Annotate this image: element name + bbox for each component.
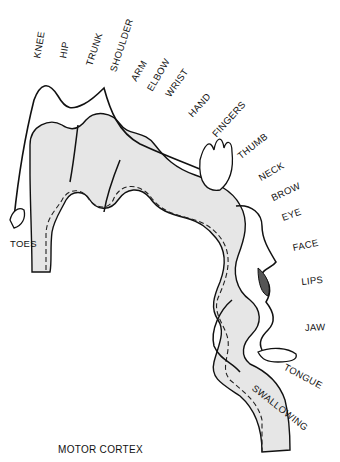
homunculus-hand — [200, 139, 233, 190]
motor-homunculus-diagram — [0, 0, 340, 462]
label-jaw: JAW — [305, 321, 326, 333]
homunculus-tongue — [258, 348, 296, 362]
label-lips: LIPS — [301, 274, 324, 287]
label-toes: TOES — [10, 238, 37, 249]
cortex-band — [30, 114, 290, 452]
homunculus-foot — [10, 209, 25, 228]
diagram-title: MOTOR CORTEX — [58, 444, 143, 455]
